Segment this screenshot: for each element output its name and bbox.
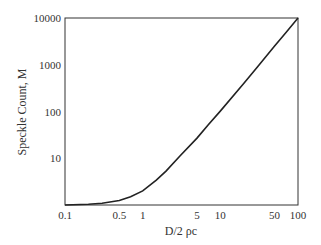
x-axis-label: D/2 ρc <box>165 224 197 238</box>
x-tick-label: 0.5 <box>112 209 126 221</box>
y-tick-label: 1000 <box>39 59 62 71</box>
y-tick-label: 10000 <box>34 12 62 24</box>
x-tick-label: 100 <box>290 209 307 221</box>
x-tick-label: 10 <box>215 209 227 221</box>
x-tick-label: 50 <box>269 209 281 221</box>
speckle-count-chart: 0.10.515105010010100100010000 Speckle Co… <box>0 0 321 245</box>
axis-ticks: 0.10.515105010010100100010000 <box>34 12 307 221</box>
x-tick-label: 1 <box>140 209 146 221</box>
x-tick-label: 5 <box>194 209 200 221</box>
x-tick-label: 0.1 <box>58 209 72 221</box>
y-axis-label: Speckle Count, M <box>15 68 29 155</box>
plot-frame <box>65 18 298 205</box>
data-curve <box>65 18 298 205</box>
y-tick-label: 100 <box>45 106 62 118</box>
y-tick-label: 10 <box>50 152 62 164</box>
